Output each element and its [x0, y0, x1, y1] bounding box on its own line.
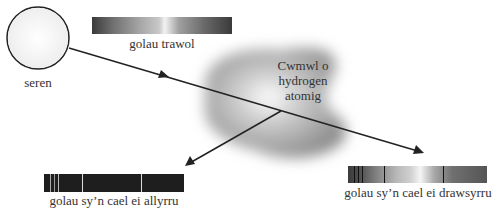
cloud-label-line-1: Cwmwl o — [268, 58, 338, 73]
arrowhead-icon — [158, 70, 169, 78]
cloud-label-line-2: hydrogen — [268, 73, 338, 88]
arrowhead-icon — [413, 145, 424, 154]
emission-ray — [188, 111, 281, 164]
cloud-label-line-3: atomig — [268, 88, 338, 103]
cloud-label: Cwmwl o hydrogen atomig — [268, 58, 338, 103]
star-label: seren — [8, 75, 68, 91]
light-ray — [69, 48, 421, 152]
diagram-strokes — [0, 0, 495, 215]
